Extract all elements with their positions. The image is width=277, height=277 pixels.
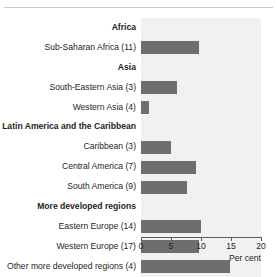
chart-plot-rows: AfricaSub-Saharan Africa (11)AsiaSouth-E…	[0, 18, 277, 237]
bar-category-label: Western Europe (17)	[56, 237, 136, 257]
bar-category-label: Sub-Saharan Africa (11)	[44, 38, 136, 58]
bar	[141, 220, 201, 233]
top-divider-rule	[4, 7, 273, 8]
plot-row-background	[141, 217, 261, 237]
bar	[141, 101, 149, 114]
x-axis-tick-label: 5	[169, 241, 174, 251]
plot-row-background	[141, 177, 261, 197]
plot-row-background	[141, 38, 261, 58]
x-axis-tick	[141, 237, 142, 241]
bar-category-label: Other more developed regions (4)	[7, 257, 136, 277]
x-axis-tick	[231, 237, 232, 241]
x-axis-tick	[261, 237, 262, 241]
bar-category-label: South-Eastern Asia (3)	[50, 78, 136, 98]
plot-row-background	[141, 98, 261, 118]
bar-category-label: Western Asia (4)	[73, 98, 136, 118]
chart-bar-row: South-Eastern Asia (3)	[0, 78, 277, 98]
chart-bar-row: South America (9)	[0, 177, 277, 197]
group-heading-label: Africa	[112, 18, 136, 38]
bar	[141, 161, 196, 174]
chart-bar-row: Sub-Saharan Africa (11)	[0, 38, 277, 58]
bar	[141, 81, 177, 94]
bar	[141, 181, 187, 194]
plot-row-background	[141, 78, 261, 98]
x-axis-tick	[171, 237, 172, 241]
plot-row-background	[141, 197, 261, 217]
x-axis-tick-label: 10	[196, 241, 206, 251]
group-heading-label: Asia	[118, 58, 136, 78]
x-axis: 05101520 Per cent	[141, 237, 261, 267]
x-axis-tick	[201, 237, 202, 241]
x-axis-tick-label: 15	[226, 241, 236, 251]
chart-group-heading-row: Latin America and the Caribbean	[0, 117, 277, 137]
plot-row-background	[141, 18, 261, 38]
bar-category-label: Central America (7)	[62, 157, 136, 177]
plot-row-background	[141, 157, 261, 177]
bar	[141, 141, 171, 154]
x-axis-tick-label: 20	[256, 241, 266, 251]
group-heading-label: More developed regions	[37, 197, 136, 217]
bar-category-label: Eastern Europe (14)	[59, 217, 136, 237]
chart-bar-row: Western Asia (4)	[0, 98, 277, 118]
plot-row-background	[141, 137, 261, 157]
group-heading-label: Latin America and the Caribbean	[2, 117, 136, 137]
chart-group-heading-row: Asia	[0, 58, 277, 78]
plot-row-background	[141, 117, 261, 137]
plot-row-background	[141, 58, 261, 78]
chart-group-heading-row: More developed regions	[0, 197, 277, 217]
x-axis-tick-label: 0	[139, 241, 144, 251]
x-axis-title: Per cent	[229, 253, 261, 263]
bar-category-label: Caribbean (3)	[83, 137, 136, 157]
chart-bar-row: Central America (7)	[0, 157, 277, 177]
chart-bar-row: Caribbean (3)	[0, 137, 277, 157]
chart-group-heading-row: Africa	[0, 18, 277, 38]
chart-bar-row: Eastern Europe (14)	[0, 217, 277, 237]
bar	[141, 41, 199, 54]
bar-category-label: South America (9)	[67, 177, 136, 197]
